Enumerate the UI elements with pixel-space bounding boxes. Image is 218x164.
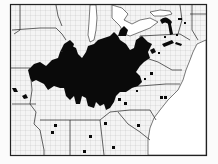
range-map xyxy=(0,0,218,164)
